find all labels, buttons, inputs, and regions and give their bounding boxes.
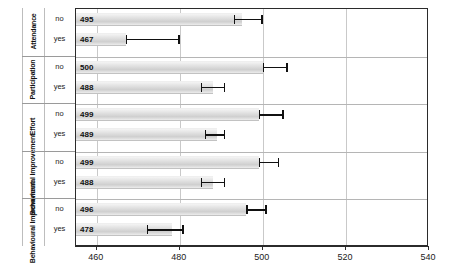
row-label-yes: yes xyxy=(44,32,75,45)
row-label-no: no xyxy=(44,12,75,25)
group-separator xyxy=(76,104,427,105)
x-tick-540 xyxy=(428,246,429,250)
error-bar-cap-high xyxy=(178,35,180,44)
label-column-mid-edge xyxy=(44,8,45,246)
bar-chart: AttendanceParticipationEffortBehavioural… xyxy=(0,0,461,278)
x-tick-label-500: 500 xyxy=(254,252,269,262)
row-label-no: no xyxy=(44,107,75,120)
gridline-520 xyxy=(346,9,347,245)
x-tick-label-540: 540 xyxy=(420,252,435,262)
error-bar-cap-low xyxy=(263,63,265,72)
bar-value-label: 496 xyxy=(80,203,93,216)
error-bar-line xyxy=(126,39,180,40)
bar-value-label: 495 xyxy=(80,13,93,26)
bar xyxy=(76,128,217,141)
error-bar-cap-high xyxy=(286,63,288,72)
error-bar xyxy=(259,108,284,121)
group-separator xyxy=(76,199,427,200)
error-bar xyxy=(201,176,226,189)
row-label-no: no xyxy=(44,155,75,168)
group-label: Attendance xyxy=(22,8,44,56)
error-bar xyxy=(234,13,263,26)
bar xyxy=(76,13,242,26)
error-bar-cap-low xyxy=(234,15,236,24)
error-bar-cap-high xyxy=(282,110,284,119)
bar-value-label: 499 xyxy=(80,156,93,169)
x-tick-520 xyxy=(345,246,346,250)
error-bar xyxy=(147,223,184,236)
error-bar-line xyxy=(234,19,263,20)
error-bar xyxy=(126,33,180,46)
error-bar xyxy=(205,128,226,141)
error-bar-line xyxy=(147,229,184,230)
bar-value-label: 499 xyxy=(80,108,93,121)
bar-value-label: 467 xyxy=(80,33,93,46)
group-separator-label xyxy=(22,56,75,57)
x-tick-460 xyxy=(96,246,97,250)
row-label-yes: yes xyxy=(44,175,75,188)
bar xyxy=(76,203,246,216)
x-tick-label-480: 480 xyxy=(171,252,186,262)
bar-value-label: 488 xyxy=(80,81,93,94)
error-bar-cap-low xyxy=(201,83,203,92)
bar-value-label: 478 xyxy=(80,223,93,236)
error-bar-line xyxy=(205,134,226,135)
error-bar-line xyxy=(246,209,267,210)
error-bar-cap-high xyxy=(265,205,267,214)
error-bar-cap-low xyxy=(246,205,248,214)
error-bar-line xyxy=(201,182,226,183)
plot-area: 495467500488499489499488496478 xyxy=(75,8,428,246)
row-label-no: no xyxy=(44,202,75,215)
error-bar-cap-low xyxy=(259,158,261,167)
row-label-column: noyesnoyesnoyesnoyesnoyes xyxy=(44,8,75,246)
group-label: Behavioural Improvement xyxy=(22,198,44,246)
group-separator xyxy=(76,57,427,58)
error-bar xyxy=(201,81,226,94)
group-label-text: Attendance xyxy=(30,14,37,50)
error-bar-cap-high xyxy=(224,83,226,92)
label-column-left-edge xyxy=(22,8,23,246)
group-separator-label xyxy=(22,198,75,199)
group-label-text: Participation xyxy=(30,59,37,99)
error-bar-cap-low xyxy=(205,130,207,139)
group-label-column: AttendanceParticipationEffortBehavioural… xyxy=(22,8,44,246)
error-bar-cap-low xyxy=(259,110,261,119)
bar xyxy=(76,108,259,121)
error-bar-cap-high xyxy=(278,158,280,167)
error-bar xyxy=(246,203,267,216)
error-bar-cap-high xyxy=(224,130,226,139)
row-label-yes: yes xyxy=(44,222,75,235)
bar-value-label: 488 xyxy=(80,176,93,189)
x-tick-label-520: 520 xyxy=(337,252,352,262)
x-tick-500 xyxy=(262,246,263,250)
error-bar-line xyxy=(259,114,284,115)
row-label-yes: yes xyxy=(44,127,75,140)
error-bar-cap-high xyxy=(224,178,226,187)
bar xyxy=(76,156,259,169)
x-axis-line xyxy=(75,246,428,247)
bar-value-label: 500 xyxy=(80,61,93,74)
group-label: Participation xyxy=(22,56,44,104)
error-bar-cap-low xyxy=(126,35,128,44)
row-label-no: no xyxy=(44,60,75,73)
bar xyxy=(76,176,213,189)
error-bar-line xyxy=(201,87,226,88)
error-bar-cap-high xyxy=(182,225,184,234)
x-tick-480 xyxy=(179,246,180,250)
group-separator-label xyxy=(22,103,75,104)
group-separator-label xyxy=(22,151,75,152)
x-tick-label-460: 460 xyxy=(88,252,103,262)
row-label-yes: yes xyxy=(44,80,75,93)
error-bar-cap-low xyxy=(201,178,203,187)
bar xyxy=(76,61,263,74)
error-bar xyxy=(263,61,288,74)
error-bar-cap-high xyxy=(261,15,263,24)
error-bar xyxy=(259,156,280,169)
error-bar-line xyxy=(259,162,280,163)
group-separator xyxy=(76,152,427,153)
group-label-text: Behavioural Improvement xyxy=(30,182,37,263)
error-bar-line xyxy=(263,67,288,68)
bar xyxy=(76,81,213,94)
error-bar-cap-low xyxy=(147,225,149,234)
bar-value-label: 489 xyxy=(80,128,93,141)
